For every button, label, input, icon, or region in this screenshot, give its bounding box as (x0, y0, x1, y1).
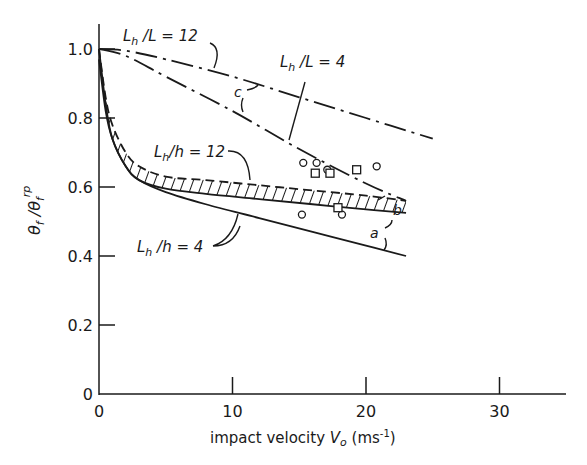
data-point-circle (313, 159, 320, 166)
arrow-a (384, 220, 392, 250)
arrow-lhh4 (213, 214, 240, 246)
x-tick-label: 10 (222, 402, 242, 421)
arrow-c (242, 85, 259, 112)
y-tick-label: 1.0 (68, 40, 93, 59)
hatched-band (99, 49, 406, 213)
x-tick-label: 20 (356, 402, 376, 421)
series-line-0 (99, 49, 433, 139)
y-tick-label: 0 (83, 385, 93, 404)
y-axis-title: θf /θfrp (20, 186, 47, 235)
y-tick-label: 0.2 (68, 316, 93, 335)
data-point-square (326, 169, 334, 177)
annotation-b: b (393, 202, 402, 218)
annotation-lhh12: Lh/h = 12 (154, 143, 225, 164)
series-line-4 (99, 49, 406, 256)
data-point-square (334, 204, 342, 212)
annotation-lhh4: Lh /h = 4 (137, 238, 203, 259)
y-tick-label: 0.6 (68, 178, 93, 197)
x-tick-label: 30 (489, 402, 509, 421)
series-lines (99, 49, 433, 256)
chart-canvas: 00.20.40.60.81.00102030 impact velocity … (0, 0, 587, 465)
data-point-square (353, 166, 361, 174)
data-point-square (311, 169, 319, 177)
annotation-lhL12: Lh /L = 12 (123, 27, 198, 48)
data-point-circle (300, 159, 307, 166)
axes (99, 24, 566, 395)
annotation-a: a (370, 225, 379, 241)
data-point-circle (373, 163, 380, 170)
annotation-lhL4: Lh /L = 4 (280, 53, 345, 74)
data-point-circle (298, 211, 305, 218)
x-ticks (233, 377, 500, 394)
annotation-arrows (210, 43, 392, 250)
y-tick-label: 0.8 (68, 109, 93, 128)
arrow-lhL4 (289, 82, 305, 140)
x-axis-title: impact velocity Vo (ms-1) (210, 428, 396, 449)
arrow-lhh12 (228, 151, 250, 180)
arrow-lhL12 (210, 43, 217, 68)
tick-labels: 00.20.40.60.81.00102030 (68, 40, 510, 421)
annotation-c: c (234, 84, 242, 100)
y-ticks (99, 49, 115, 325)
x-tick-label: 0 (94, 402, 104, 421)
y-tick-label: 0.4 (68, 247, 93, 266)
